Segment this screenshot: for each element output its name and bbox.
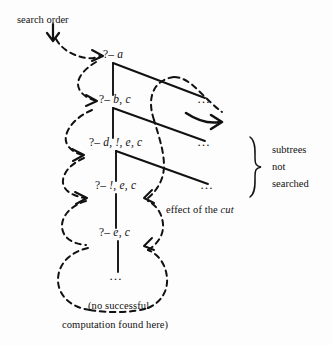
node-ec-goal: e, c xyxy=(113,226,130,238)
node-dlec-prefix: ?– xyxy=(89,136,103,148)
node-ec: ?– e, c xyxy=(99,227,130,239)
search-order-dashed-path-group xyxy=(56,39,222,312)
branch-ellipsis-3: … xyxy=(200,178,215,191)
search-order-path-cut-rise-lower xyxy=(148,120,164,198)
node-bc-goal: b, c xyxy=(113,93,130,105)
search-order-path-mid-right xyxy=(148,201,163,250)
effect-of-cut-label: effect of the cut xyxy=(166,205,234,216)
subtrees-label-line-1: subtrees xyxy=(272,145,306,156)
search-order-label: search order xyxy=(17,15,69,26)
search-order-down-arrow-group xyxy=(47,24,59,41)
effect-of-cut-prefix: effect of the xyxy=(166,204,221,215)
subtrees-curly-brace xyxy=(250,137,261,197)
subtrees-brace-group xyxy=(250,137,261,197)
node-ec-prefix: ?– xyxy=(99,226,113,238)
node-bc-prefix: ?– xyxy=(99,93,113,105)
figure-canvas xyxy=(0,0,333,345)
search-order-path-ec-to-dots xyxy=(58,248,90,310)
search-order-path-lec-to-ec xyxy=(62,201,86,245)
node-lec-prefix: ?– xyxy=(95,179,109,191)
branch-ellipsis-1: … xyxy=(197,92,212,105)
subtrees-label-line-2: not xyxy=(272,162,285,173)
subtrees-label-line-3: searched xyxy=(272,179,309,190)
node-a-goal: a xyxy=(117,48,123,60)
search-order-path-dlec-to-lec xyxy=(63,158,85,198)
node-dlec: ?– d, !, e, c xyxy=(89,137,142,149)
search-tree-figure: search order ?– a ?– b, c ?– d, !, e, c … xyxy=(0,0,333,345)
node-bottom-ellipsis: … xyxy=(109,269,124,282)
effect-of-cut-keyword: cut xyxy=(221,204,234,215)
cut-effect-arrow-group xyxy=(186,113,222,129)
node-lec-goal: !, e, c xyxy=(109,179,136,191)
caption-line-1: (no successful xyxy=(88,301,149,312)
branch-ellipsis-2: … xyxy=(197,135,212,148)
node-dlec-goal: d, !, e, c xyxy=(103,136,142,148)
node-lec: ?– !, e, c xyxy=(95,180,136,192)
arrowhead-into-a xyxy=(92,50,103,61)
caption-line-2: computation found here) xyxy=(62,320,168,331)
search-order-path-lower-right xyxy=(148,250,167,308)
search-order-path-cut-rise-upper xyxy=(151,77,174,120)
node-a: ?– a xyxy=(103,49,123,61)
arrowhead-into-ec xyxy=(144,238,154,250)
node-a-prefix: ?– xyxy=(103,48,117,60)
search-order-path-entry xyxy=(56,39,101,58)
node-bc: ?– b, c xyxy=(99,94,131,106)
arrowhead-into-bc xyxy=(86,95,97,106)
